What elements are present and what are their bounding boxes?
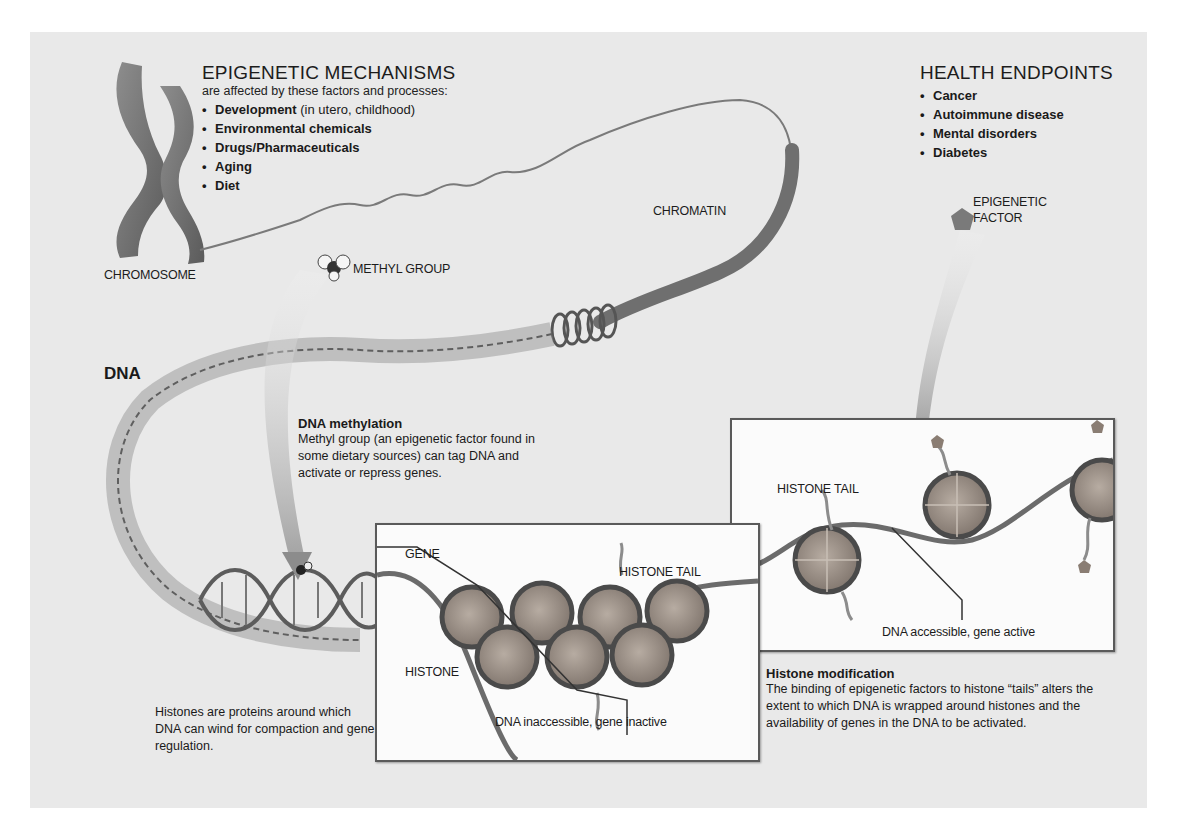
histone-modification-caption: Histone modification The binding of epig… <box>766 666 1111 732</box>
inset-compacted-chromatin: GENE HISTONE TAIL HISTONE DNA inaccessib… <box>375 523 760 762</box>
histone-cluster-icon <box>442 581 707 687</box>
health-item: Autoimmune disease <box>920 105 1113 124</box>
label-gene: GENE <box>405 547 440 561</box>
label-chromatin: CHROMATIN <box>653 204 726 218</box>
mechanisms-subtitle: are affected by these factors and proces… <box>202 84 455 98</box>
bound-factor-icon <box>1078 560 1091 573</box>
health-list: Cancer Autoimmune disease Mental disorde… <box>920 86 1113 162</box>
health-endpoints-block: HEALTH ENDPOINTS Cancer Autoimmune disea… <box>920 62 1113 162</box>
health-item: Diabetes <box>920 143 1113 162</box>
health-item: Cancer <box>920 86 1113 105</box>
label-histone: HISTONE <box>405 665 459 679</box>
mechanisms-block: EPIGENETIC MECHANISMS are affected by th… <box>202 62 455 195</box>
health-item: Mental disorders <box>920 124 1113 143</box>
label-histone-tail-right: HISTONE TAIL <box>777 482 859 496</box>
histones-caption: Histones are proteins around which DNA c… <box>155 704 375 755</box>
label-epigenetic-factor: EPIGENETIC FACTOR <box>973 194 1047 226</box>
bound-factor-icon <box>931 435 944 448</box>
methylation-caption: DNA methylation Methyl group (an epigene… <box>298 416 558 482</box>
histone-modification-body: The binding of epigenetic factors to his… <box>766 681 1111 732</box>
label-dna: DNA <box>104 364 141 384</box>
label-dna-accessible: DNA accessible, gene active <box>882 625 1035 639</box>
mechanisms-title: EPIGENETIC MECHANISMS <box>202 62 455 84</box>
label-dna-inaccessible: DNA inaccessible, gene inactive <box>495 715 667 729</box>
methylation-body: Methyl group (an epigenetic factor found… <box>298 431 558 482</box>
accessible-dna-illustration <box>732 420 1113 650</box>
inset-histone-modification: HISTONE TAIL DNA accessible, gene active <box>730 418 1115 652</box>
health-title: HEALTH ENDPOINTS <box>920 62 1113 84</box>
chromosome-icon <box>116 62 204 264</box>
histone-modification-heading: Histone modification <box>766 666 1111 681</box>
methylation-heading: DNA methylation <box>298 416 558 431</box>
histones-body: Histones are proteins around which DNA c… <box>155 704 375 755</box>
mechanism-item: Environmental chemicals <box>202 119 455 138</box>
mechanisms-list: Development (in utero, childhood) Enviro… <box>202 100 455 195</box>
label-histone-tail-left: HISTONE TAIL <box>619 565 701 579</box>
label-methyl-group: METHYL GROUP <box>353 262 450 276</box>
mechanism-item: Diet <box>202 176 455 195</box>
mechanism-item: Drugs/Pharmaceuticals <box>202 138 455 157</box>
bound-factor-icon <box>1091 420 1104 433</box>
epigenetic-factor-icon <box>951 208 974 230</box>
mechanism-item: Aging <box>202 157 455 176</box>
label-chromosome: CHROMOSOME <box>104 268 196 282</box>
mechanism-item: Development (in utero, childhood) <box>202 100 455 119</box>
